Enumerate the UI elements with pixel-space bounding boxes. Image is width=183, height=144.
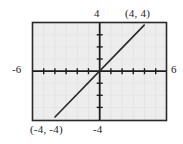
x-axis-left-label: -6 (12, 64, 22, 75)
coordinate-plane-figure: 4 (4, 4) -6 6 (-4, -4) -4 (0, 0, 183, 144)
y-axis-top-label: 4 (94, 8, 100, 19)
coordinate-plane-graph (0, 0, 183, 144)
point-label-upper-right: (4, 4) (125, 8, 150, 19)
x-axis-right-label: 6 (171, 64, 177, 75)
y-axis-bottom-label: -4 (93, 124, 103, 135)
point-label-lower-left: (-4, -4) (30, 124, 63, 135)
